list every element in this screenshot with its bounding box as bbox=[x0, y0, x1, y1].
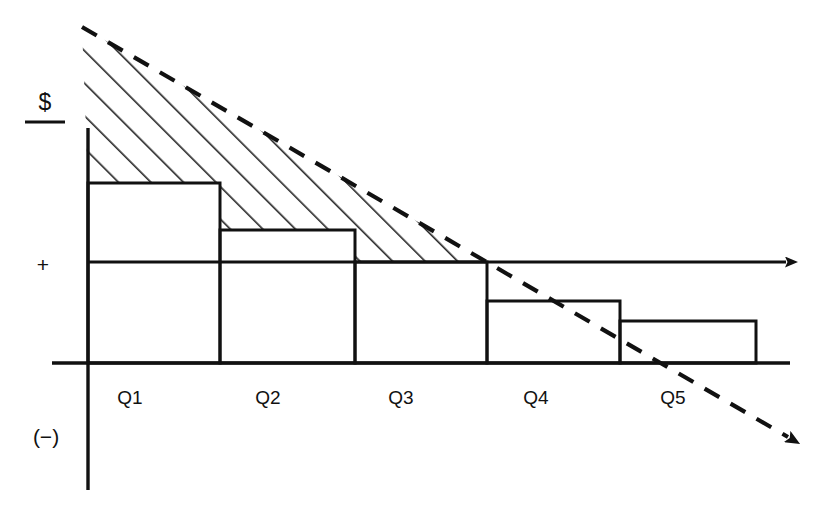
bar-q4 bbox=[487, 301, 620, 363]
category-label-q5: Q5 bbox=[660, 387, 685, 408]
positive-sign-label: + bbox=[37, 253, 49, 276]
category-axis-labels: Q1 Q2 Q3 Q4 Q5 bbox=[117, 387, 685, 408]
category-label-q1: Q1 bbox=[117, 387, 142, 408]
bar-q2 bbox=[220, 230, 355, 363]
bar-q5 bbox=[620, 321, 756, 363]
bar-series bbox=[88, 183, 756, 363]
hatched-gap-region bbox=[60, 10, 530, 300]
negative-sign-label: (−) bbox=[33, 425, 59, 448]
bar-q1 bbox=[88, 183, 220, 363]
category-label-q3: Q3 bbox=[388, 387, 413, 408]
y-axis-unit-label: $ bbox=[39, 89, 52, 115]
chart-figure: $ + (−) Q1 Q2 Q3 Q4 Q5 bbox=[0, 0, 826, 507]
chart-canvas: $ + (−) Q1 Q2 Q3 Q4 Q5 bbox=[0, 0, 826, 507]
category-label-q4: Q4 bbox=[523, 387, 549, 408]
category-label-q2: Q2 bbox=[255, 387, 280, 408]
y-axis-unit-group: $ bbox=[25, 89, 65, 122]
bar-q3 bbox=[355, 262, 487, 363]
